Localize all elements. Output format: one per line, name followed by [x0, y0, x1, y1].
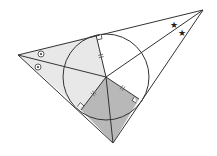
- dot-icon: [40, 53, 42, 55]
- incircle-diagram: ★★: [0, 0, 217, 156]
- star-icon: ★: [178, 28, 186, 38]
- dot-icon: [37, 66, 39, 68]
- star-icon: ★: [170, 20, 178, 30]
